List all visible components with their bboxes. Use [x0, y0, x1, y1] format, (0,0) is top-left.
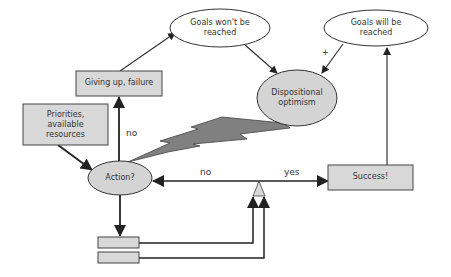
priorities-label: Priorities, available resources [23, 110, 108, 140]
node-small-box-1 [98, 237, 139, 248]
giving-up-label: Giving up, failure [76, 78, 162, 88]
optimism-line1: Dispositional [257, 88, 337, 98]
priorities-line3: resources [23, 130, 108, 140]
edge-label-plus: + [322, 48, 329, 57]
lightning-bolt [128, 117, 290, 162]
node-small-box-2 [98, 252, 139, 263]
goals-wont-label: Goals won't be reached [170, 18, 270, 38]
optimism-label: Dispositional optimism [257, 88, 337, 108]
edge-goals-wont-to-optimism [245, 45, 277, 73]
success-label: Success! [328, 172, 413, 182]
goals-will-label: Goals will be reached [324, 18, 428, 38]
edge-label-yes: yes [284, 167, 300, 177]
goals-wont-line1: Goals won't be [170, 18, 270, 28]
edge-label-no-left: no [200, 167, 211, 177]
edge-giving-up-to-goals-wont [120, 33, 175, 71]
optimism-line2: optimism [257, 98, 337, 108]
goals-will-line1: Goals will be [324, 18, 428, 28]
edge-priorities-to-action [58, 145, 92, 170]
edge-label-no-up: no [126, 128, 137, 138]
priorities-line1: Priorities, [23, 110, 108, 120]
priorities-line2: available [23, 120, 108, 130]
edge-box2-to-balance [139, 197, 264, 258]
goals-will-line2: reached [324, 28, 428, 38]
edge-box1-to-balance [139, 197, 253, 243]
action-label: Action? [88, 173, 152, 183]
goals-wont-line2: reached [170, 28, 270, 38]
balance-fulcrum-icon [253, 181, 265, 196]
